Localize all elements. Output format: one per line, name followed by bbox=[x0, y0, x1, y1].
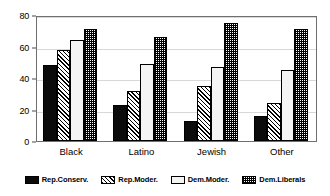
bar bbox=[70, 40, 84, 141]
bar bbox=[154, 37, 168, 141]
legend-swatch-icon bbox=[242, 176, 256, 184]
y-tick-label: 40 bbox=[19, 75, 29, 84]
y-tick-label: 0 bbox=[24, 138, 29, 147]
legend-label: Dem.Liberals bbox=[259, 176, 305, 184]
legend-swatch-icon bbox=[171, 176, 185, 184]
bar bbox=[184, 121, 198, 141]
legend-item: Dem.Moder. bbox=[171, 176, 230, 184]
x-tick-label: Latino bbox=[128, 146, 154, 157]
x-tick-label: Black bbox=[60, 146, 83, 157]
plot-area bbox=[36, 16, 317, 142]
legend-item: Rep.Moder. bbox=[101, 176, 157, 184]
bar bbox=[113, 105, 127, 141]
bar bbox=[43, 65, 57, 141]
bar bbox=[211, 67, 225, 141]
bar bbox=[267, 103, 281, 141]
legend-item: Rep.Conserv. bbox=[25, 176, 89, 184]
bars-layer bbox=[37, 17, 316, 141]
x-tick-label: Other bbox=[270, 146, 294, 157]
legend-swatch-icon bbox=[25, 176, 39, 184]
bar bbox=[281, 70, 295, 141]
x-axis: BlackLatinoJewishOther bbox=[36, 146, 317, 160]
bar bbox=[57, 50, 71, 141]
y-tick-label: 80 bbox=[19, 12, 29, 21]
y-axis: 020406080 bbox=[0, 0, 36, 196]
bar bbox=[254, 116, 268, 141]
bar bbox=[197, 86, 211, 141]
bar bbox=[127, 91, 141, 141]
bar bbox=[84, 29, 98, 141]
chart-legend: Rep.Conserv.Rep.Moder.Dem.Moder.Dem.Libe… bbox=[0, 172, 330, 188]
bar bbox=[294, 29, 308, 141]
legend-item: Dem.Liberals bbox=[242, 176, 305, 184]
legend-label: Rep.Moder. bbox=[118, 176, 157, 184]
x-tick-label: Jewish bbox=[197, 146, 226, 157]
y-tick-label: 60 bbox=[19, 43, 29, 52]
bar bbox=[224, 23, 238, 141]
y-tick-label: 20 bbox=[19, 106, 29, 115]
legend-label: Rep.Conserv. bbox=[42, 176, 89, 184]
bar-chart: 020406080 BlackLatinoJewishOther Rep.Con… bbox=[0, 0, 330, 196]
legend-swatch-icon bbox=[101, 176, 115, 184]
bar bbox=[140, 64, 154, 141]
legend-label: Dem.Moder. bbox=[188, 176, 230, 184]
